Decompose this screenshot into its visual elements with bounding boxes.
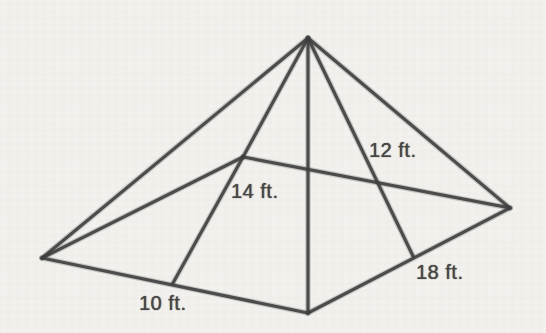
scanned-diagram-page: 12 ft. 14 ft. 10 ft. 18 ft. [0, 0, 546, 333]
edge-apex--base-left [42, 38, 308, 258]
edge-apex--base-back [243, 38, 308, 157]
measurement-label-12ft: 12 ft. [369, 140, 416, 161]
measurement-label-14ft: 14 ft. [231, 181, 278, 202]
pyramid-figure [0, 0, 546, 333]
edge-apex--base-right [308, 38, 510, 208]
edge-base-front--base-right [308, 208, 510, 313]
measurement-label-10ft: 10 ft. [139, 293, 186, 314]
measurement-label-18ft: 18 ft. [416, 262, 463, 283]
